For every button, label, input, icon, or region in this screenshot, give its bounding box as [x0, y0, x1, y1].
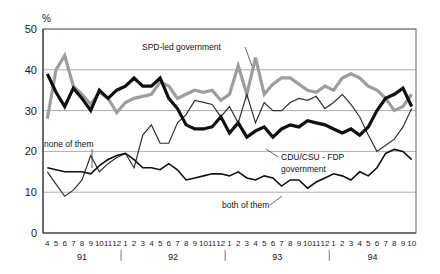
x-tick-2: 5: [54, 239, 59, 248]
year-label-91: 91: [77, 252, 87, 262]
x-tick-10: 1: [123, 239, 128, 248]
x-tick-14: 5: [158, 239, 163, 248]
x-tick-28: 7: [279, 239, 284, 248]
y-axis-unit-label: %: [42, 13, 51, 24]
x-tick-15: 6: [167, 239, 172, 248]
x-tick-37: 4: [357, 239, 362, 248]
x-tick-35: 2: [340, 239, 345, 248]
x-tick-12: 3: [141, 239, 146, 248]
x-tick-29: 8: [288, 239, 293, 248]
x-tick-1: 4: [45, 239, 50, 248]
x-tick-24: 3: [245, 239, 250, 248]
x-tick-4: 7: [71, 239, 76, 248]
x-tick-17: 8: [184, 239, 189, 248]
x-tick-6: 9: [88, 239, 93, 248]
x-tick-26: 5: [262, 239, 267, 248]
y-tick-50: 50: [25, 23, 37, 35]
y-tick-10: 10: [25, 186, 37, 198]
y-tick-20: 20: [25, 145, 37, 157]
x-tick-22: 1: [227, 239, 232, 248]
annotation-spd-label: SPD-led government: [142, 42, 222, 52]
year-label-93: 93: [272, 252, 282, 262]
x-tick-23: 2: [236, 239, 241, 248]
x-tick-3: 6: [62, 239, 67, 248]
y-tick-40: 40: [25, 64, 37, 76]
x-tick-38: 5: [366, 239, 371, 248]
annotation-both-label: both of them: [222, 200, 269, 210]
x-tick-16: 7: [175, 239, 180, 248]
year-label-94: 94: [368, 252, 378, 262]
x-tick-11: 2: [132, 239, 137, 248]
x-tick-18: 9: [193, 239, 198, 248]
x-tick-42: 9: [401, 239, 406, 248]
x-tick-21: 12: [216, 239, 225, 248]
year-label-92: 92: [168, 252, 178, 262]
chart-svg: 01020304050 4567891011121234567891011121…: [0, 0, 440, 274]
x-tick-13: 4: [149, 239, 154, 248]
x-tick-34: 1: [331, 239, 336, 248]
x-tick-36: 3: [349, 239, 354, 248]
x-tick-9: 12: [112, 239, 121, 248]
x-tick-41: 8: [392, 239, 397, 248]
annotation-none-label: none of them: [44, 139, 94, 149]
x-axis-tick-labels: 4567891011121234567891011121234567891011…: [45, 239, 417, 248]
chart-container: 01020304050 4567891011121234567891011121…: [0, 0, 440, 274]
annotation-cdu-label-line1: CDU/CSU - FDP: [281, 152, 345, 162]
x-tick-30: 9: [297, 239, 302, 248]
x-tick-33: 12: [320, 239, 329, 248]
x-tick-39: 6: [375, 239, 380, 248]
x-tick-25: 4: [253, 239, 258, 248]
x-tick-5: 8: [80, 239, 85, 248]
x-tick-27: 6: [271, 239, 276, 248]
y-tick-0: 0: [31, 227, 37, 239]
x-tick-40: 7: [383, 239, 388, 248]
y-tick-30: 30: [25, 105, 37, 117]
x-tick-43: 10: [407, 239, 416, 248]
annotation-cdu-label-line2: government: [281, 164, 327, 174]
